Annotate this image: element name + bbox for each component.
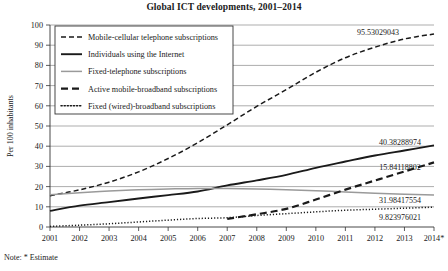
chart-plot-area: 0102030405060708090100 Per 100 inhabitan… <box>0 0 448 271</box>
y-tick-label: 40 <box>35 142 43 151</box>
x-tick-label: 2013 <box>396 234 412 243</box>
series-end-value-label: 31.98417554 <box>379 196 421 205</box>
y-tick-label: 50 <box>35 122 43 131</box>
series-line <box>50 188 434 195</box>
x-tick-label: 2008 <box>249 234 265 243</box>
legend-label: Individuals using the Internet <box>88 50 185 59</box>
series-end-value-label: 9.823976021 <box>379 213 421 222</box>
legend-label: Fixed-telephone subscriptions <box>88 67 186 76</box>
y-tick-label: 30 <box>35 162 43 171</box>
x-tick-label: 2006 <box>190 234 206 243</box>
x-tick-label: 2012 <box>367 234 383 243</box>
y-tick-label: 70 <box>35 82 43 91</box>
y-tick-label: 100 <box>31 21 43 30</box>
y-axis-ticks <box>46 25 50 227</box>
y-axis-tick-labels: 0102030405060708090100 <box>31 21 43 232</box>
chart-legend: Mobile-cellular telephone subscriptionsI… <box>55 26 233 114</box>
x-tick-label: 2010 <box>308 234 324 243</box>
legend-label: Fixed (wired)-broadband subscriptions <box>88 102 215 111</box>
x-tick-label: 2001 <box>42 234 58 243</box>
series-line <box>50 207 434 226</box>
chart-figure: Global ICT developments, 2001–2014 01020… <box>0 0 448 271</box>
x-tick-label: 2014* <box>424 234 444 243</box>
series-line <box>50 145 434 210</box>
series-end-value-label: 40.38288974 <box>379 138 421 147</box>
y-tick-label: 90 <box>35 41 43 50</box>
x-tick-label: 2007 <box>219 234 235 243</box>
figure-note: Note: * Estimate <box>4 253 58 262</box>
y-tick-label: 80 <box>35 61 43 70</box>
series-end-value-label: 15.84118802 <box>379 163 421 172</box>
x-tick-label: 2004 <box>130 234 146 243</box>
x-tick-label: 2005 <box>160 234 176 243</box>
x-tick-label: 2009 <box>278 234 294 243</box>
x-axis-ticks <box>50 227 434 231</box>
y-tick-label: 0 <box>39 223 43 232</box>
x-tick-label: 2011 <box>337 234 353 243</box>
x-axis-tick-labels: 2001200220032004200520062007200820092010… <box>42 234 444 243</box>
y-tick-label: 10 <box>35 203 43 212</box>
series-end-value-label: 95.53029043 <box>357 28 399 37</box>
y-tick-label: 20 <box>35 183 43 192</box>
x-tick-label: 2003 <box>101 234 117 243</box>
y-axis-title: Per 100 inhabitants <box>6 95 15 157</box>
x-tick-label: 2002 <box>71 234 87 243</box>
legend-label: Active mobile-broadband subscriptions <box>88 85 217 94</box>
legend-label: Mobile-cellular telephone subscriptions <box>88 33 218 42</box>
y-tick-label: 60 <box>35 102 43 111</box>
